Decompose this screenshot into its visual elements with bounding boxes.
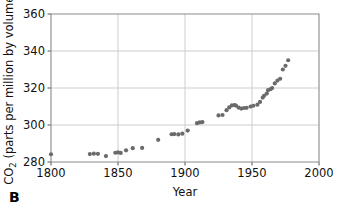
data-point: [96, 152, 100, 156]
x-tick-label: 2000: [304, 166, 333, 180]
data-point: [270, 86, 274, 90]
x-tick-label: 1800: [36, 166, 65, 180]
data-point: [278, 77, 282, 81]
figure-panel-b: 280300320340360 18001850190019502000 Yea…: [0, 0, 342, 208]
data-point: [180, 132, 184, 136]
y-tick-label: 320: [23, 81, 45, 95]
data-point: [88, 152, 92, 156]
data-point: [119, 151, 123, 155]
data-point: [258, 100, 262, 104]
data-point: [140, 146, 144, 150]
data-point: [283, 64, 287, 68]
data-point: [286, 58, 290, 62]
data-point: [186, 128, 190, 132]
data-point: [251, 104, 255, 108]
x-tick-label: 1850: [103, 166, 132, 180]
x-axis-title: Year: [172, 185, 198, 199]
y-axis-title-suffix: (parts per million by volume): [2, 0, 16, 162]
y-tick-label: 360: [23, 7, 45, 21]
data-point: [176, 132, 180, 136]
data-point: [131, 146, 135, 150]
data-point: [104, 154, 108, 158]
x-tick-label: 1900: [170, 166, 199, 180]
co2-scatter-chart: 280300320340360 18001850190019502000 Yea…: [0, 0, 342, 208]
data-point: [245, 106, 249, 110]
data-point: [124, 148, 128, 152]
y-tick-label: 340: [23, 44, 45, 58]
y-axis-title: CO2 (parts per million by volume): [2, 0, 18, 185]
data-point: [216, 113, 220, 117]
data-point: [220, 113, 224, 117]
data-point: [200, 120, 204, 124]
data-point: [92, 152, 96, 156]
data-point: [156, 138, 160, 142]
data-point: [281, 67, 285, 71]
data-point: [49, 152, 53, 156]
panel-label: B: [9, 189, 20, 205]
data-point: [172, 132, 176, 136]
y-axis-title-prefix: CO: [2, 168, 16, 185]
x-tick-label: 1950: [237, 166, 266, 180]
y-tick-label: 300: [23, 118, 45, 132]
